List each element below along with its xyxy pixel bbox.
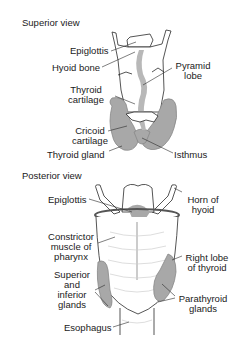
label-esophagus: Esophagus xyxy=(64,323,112,333)
posterior-view-title: Posterior view xyxy=(22,170,82,181)
label-hyoid-bone: Hyoid bone xyxy=(52,63,100,73)
label-epiglottis-posterior: Epiglottis xyxy=(48,195,87,205)
label-parathyroid-glands: Parathyroid glands xyxy=(176,294,230,314)
label-thyroid-gland: Thyroid gland xyxy=(47,150,105,160)
label-pyramid-lobe: Pyramid lobe xyxy=(172,61,214,81)
label-thyroid-cartilage: Thyroid cartilage xyxy=(66,85,106,105)
superior-view-title: Superior view xyxy=(22,17,80,28)
posterior-view-illustration xyxy=(95,184,179,335)
label-cricoid-cartilage: Cricoid cartilage xyxy=(70,126,110,146)
label-constrictor-muscle: Constrictor muscle of pharynx xyxy=(44,232,98,262)
label-horn-of-hyoid: Horn of hyoid xyxy=(180,195,226,215)
label-epiglottis-superior: Epiglottis xyxy=(70,46,109,56)
label-right-lobe-thyroid: Right lobe of thyroid xyxy=(182,253,232,273)
label-isthmus: Isthmus xyxy=(174,150,207,160)
label-superior-inferior-glands: Superior and inferior glands xyxy=(50,270,94,310)
